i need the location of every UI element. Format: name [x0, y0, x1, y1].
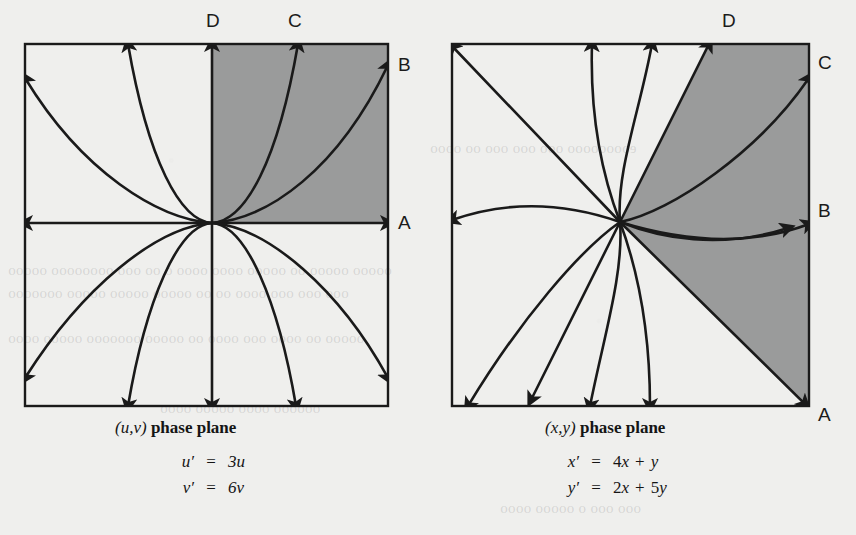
right-label-C: C [818, 52, 832, 74]
figure-page: eoooooooo ooo ooo ooo oo oooo ooooo oooo… [0, 0, 856, 535]
right-eq1-term1-var: x [622, 452, 630, 471]
right-label-B: B [818, 200, 831, 222]
right-eq2-plus: + [629, 478, 651, 497]
right-eq1-rhs: 4x+y [613, 452, 658, 472]
right-panel-caption: (x,y) phase plane [545, 418, 665, 438]
right-eq2-rhs: 2x+5y [613, 478, 667, 498]
right-eq2-term2-coef: 5 [651, 478, 660, 497]
right-eq1-term1-coef: 4 [613, 452, 622, 471]
right-equation-row-2: y′ = 2x+5y [545, 478, 667, 504]
right-panel-equations: x′ = 4x+y y′ = 2x+5y [545, 452, 667, 504]
right-trajectory-left-1 [452, 206, 620, 222]
right-caption-variables: (x,y) [545, 418, 576, 437]
right-eq2-term1-coef: 2 [613, 478, 622, 497]
right-phase-plane-diagram [0, 0, 856, 420]
right-label-D: D [722, 10, 736, 32]
right-trajectory-eigen-slow-neg [452, 46, 620, 222]
right-label-A: A [818, 404, 831, 426]
right-trajectory-lower-left-1 [468, 222, 620, 406]
right-phase-plane-panel: D C B A (x,y) phase plane x′ = 4x+y y′ =… [0, 0, 856, 535]
right-eq2-lhs: y′ [545, 478, 579, 498]
right-eq1-lhs: x′ [545, 452, 579, 472]
right-eq1-plus: + [629, 452, 651, 471]
right-eq1-term2-var: y [651, 452, 659, 471]
right-eq2-term1-var: x [622, 478, 630, 497]
right-eq1-equals: = [579, 452, 613, 472]
right-eq2-equals: = [579, 478, 613, 498]
right-caption-text: phase plane [580, 418, 666, 437]
right-trajectory-lower-2 [620, 222, 650, 406]
right-trajectory-eigen-fast-neg [531, 222, 620, 400]
right-equation-row-1: x′ = 4x+y [545, 452, 667, 478]
right-eq2-term2-var: y [659, 478, 667, 497]
